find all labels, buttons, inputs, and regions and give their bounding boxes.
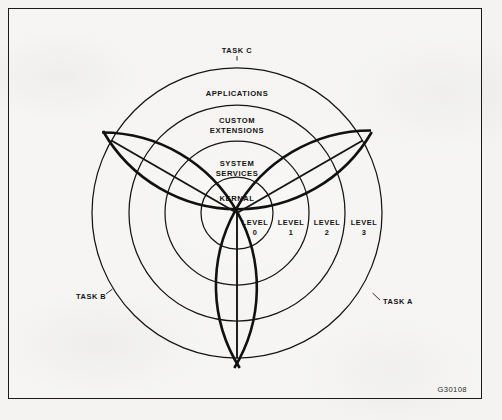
level-3-label-word: LEVEL	[351, 218, 377, 227]
ring-architecture-diagram: APPLICATIONS CUSTOM EXTENSIONS SYSTEM SE…	[0, 0, 502, 420]
level-3-label-number: 3	[362, 228, 367, 237]
task-a-leader	[373, 293, 381, 300]
figure-id-label: G30108	[438, 385, 467, 394]
level-0-label-word: LEVEL	[242, 218, 268, 227]
level-1-label-number: 1	[289, 228, 294, 237]
ring-label-custom-extensions-line2: EXTENSIONS	[210, 126, 264, 135]
level-1-label-word: LEVEL	[278, 218, 304, 227]
level-2-label-word: LEVEL	[314, 218, 340, 227]
ring-label-system-services-line2: SERVICES	[216, 169, 259, 178]
ring-label-custom-extensions-line1: CUSTOM	[219, 116, 255, 125]
task-b-label: TASK B	[76, 292, 106, 301]
task-c-label: TASK C	[222, 46, 252, 55]
ring-label-system-services-line1: SYSTEM	[220, 159, 255, 168]
task-b-leader	[106, 289, 113, 294]
level-2-label-number: 2	[325, 228, 330, 237]
ring-label-applications: APPLICATIONS	[206, 89, 269, 98]
task-a-label: TASK A	[383, 297, 413, 306]
figure-page: APPLICATIONS CUSTOM EXTENSIONS SYSTEM SE…	[0, 0, 502, 420]
ring-label-kernal: KERNAL	[220, 194, 255, 203]
level-0-label-number: 0	[253, 228, 258, 237]
